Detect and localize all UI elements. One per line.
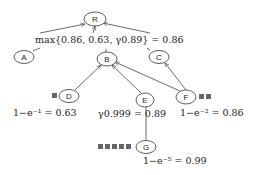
node-e: E — [136, 93, 154, 107]
edge-f-to-b — [115, 62, 180, 91]
node-c-label: C — [156, 53, 162, 62]
node-b-label: B — [104, 55, 109, 64]
formula-e: γ0.999 = 0.89 — [98, 108, 166, 119]
node-r-label: R — [92, 15, 98, 24]
node-b: B — [97, 52, 117, 66]
edge-max-right-to-r — [103, 23, 150, 33]
node-g-label: G — [143, 143, 149, 152]
node-g: G — [136, 141, 156, 154]
edge-d-to-b — [75, 65, 101, 90]
node-f-label: F — [184, 93, 189, 102]
edge-c-to-formula — [147, 48, 150, 50]
reward-squares-g — [98, 144, 131, 149]
formula-g: 1−e⁻⁵ = 0.99 — [143, 155, 207, 166]
formula-root: max{0.86, 0.63, γ0.89} = 0.86 — [35, 34, 183, 45]
edges-lower — [75, 62, 186, 140]
node-e-label: E — [142, 96, 147, 105]
edge-a-to-formula — [33, 48, 40, 51]
node-d: D — [59, 90, 79, 103]
reward-squares-f — [199, 94, 211, 99]
node-a-label: A — [21, 53, 27, 62]
node-c: C — [149, 51, 169, 64]
node-a: A — [14, 51, 34, 64]
node-f: F — [176, 90, 196, 104]
edge-e-to-b — [112, 65, 141, 93]
edge-max-mid-to-r — [93, 26, 95, 33]
tree-diagram: R A B C D E F G max{0.86 — [0, 0, 254, 175]
reward-squares-d — [52, 93, 57, 98]
formula-d: 1−e⁻¹ = 0.63 — [13, 107, 77, 118]
edge-max-left-to-r — [40, 24, 85, 33]
formula-f: 1−e⁻² = 0.86 — [180, 107, 244, 118]
node-d-label: D — [66, 92, 72, 101]
node-r: R — [84, 12, 106, 26]
